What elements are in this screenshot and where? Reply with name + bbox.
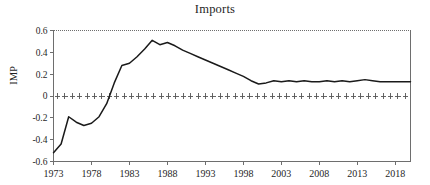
y-tick-label: -0.4 <box>32 135 47 145</box>
y-tick-label: -0.6 <box>32 157 47 167</box>
series-line-imp <box>54 40 411 152</box>
y-tick-marks <box>50 31 54 162</box>
y-tick-label: 0 <box>43 91 48 101</box>
y-tick-label: -0.2 <box>32 113 47 123</box>
chart-plot-area: 0.60.40.20-0.2-0.4-0.6 19731978198319881… <box>0 0 430 185</box>
x-tick-label: 1993 <box>195 168 215 179</box>
zero-reference-line <box>55 93 408 98</box>
x-tick-label: 1973 <box>44 168 64 179</box>
x-tick-label: 1988 <box>157 168 177 179</box>
y-tick-labels: 0.60.40.20-0.2-0.4-0.6 <box>32 26 47 167</box>
data-series-line <box>54 40 411 152</box>
x-tick-marks <box>54 162 396 166</box>
x-tick-label: 1978 <box>81 168 101 179</box>
x-tick-label: 2003 <box>271 168 291 179</box>
y-tick-label: 0.4 <box>36 48 48 58</box>
x-tick-label: 1998 <box>233 168 253 179</box>
x-tick-label: 2018 <box>385 168 405 179</box>
x-tick-label: 2013 <box>347 168 367 179</box>
x-tick-labels: 1973197819831988199319982003200820132018 <box>44 168 406 179</box>
x-tick-label: 1983 <box>119 168 139 179</box>
y-tick-label: 0.6 <box>36 26 48 36</box>
y-tick-label: 0.2 <box>36 70 48 80</box>
x-tick-label: 2008 <box>309 168 329 179</box>
chart-container: Imports IMP 0.60.40.20-0.2-0.4-0.6 19731… <box>0 0 430 185</box>
